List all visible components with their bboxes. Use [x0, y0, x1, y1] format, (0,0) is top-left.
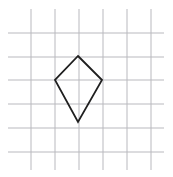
figure-container: [0, 0, 173, 177]
grid-figure-svg: [0, 0, 173, 177]
figure-background: [0, 0, 173, 177]
